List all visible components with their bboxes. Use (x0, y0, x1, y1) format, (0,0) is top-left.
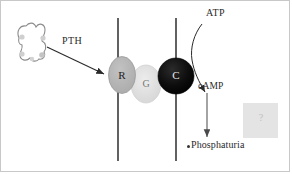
hormone-dot-3 (19, 51, 24, 56)
pth-to-receptor-arrow (47, 47, 104, 74)
hormone-dot-5 (30, 57, 34, 61)
camp-label: cAMP (198, 82, 224, 92)
hormone-dot-4 (39, 52, 45, 58)
phosphaturia-label: Phosphaturia (191, 140, 244, 150)
g-protein-label: G (137, 79, 155, 89)
hormone-dot-2 (40, 35, 45, 40)
hormone-dot-1 (19, 34, 24, 39)
receptor-label: R (113, 70, 131, 81)
phosphaturia-bullet (187, 145, 190, 148)
pth-signaling-diagram: ? PTH ATP cAMP Phosphaturia R G C (0, 0, 292, 174)
unknown-question-label: ? (252, 113, 270, 123)
pth-hormone-molecule (18, 23, 46, 61)
atp-label: ATP (206, 8, 225, 18)
pth-label: PTH (62, 36, 82, 46)
catalytic-label: C (167, 70, 185, 81)
